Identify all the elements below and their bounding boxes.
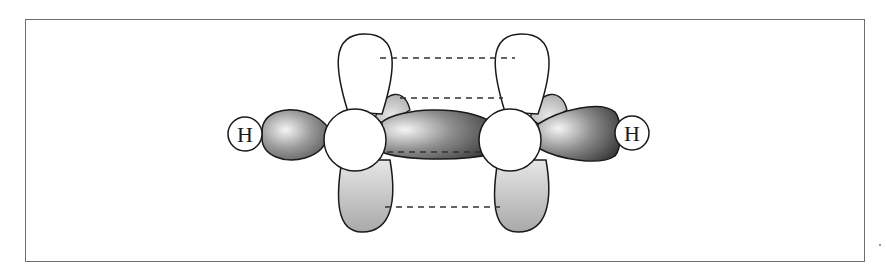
p-orbital-lower-left [339, 160, 393, 232]
carbon-atom-left [324, 109, 386, 171]
hydrogen-label-right: H [624, 121, 640, 146]
ethylene-orbital-diagram: H H [0, 0, 886, 271]
hydrogen-label-left: H [237, 122, 253, 147]
sigma-bond-left-CH [262, 110, 330, 160]
carbon-atom-right [479, 109, 541, 171]
stray-mark [879, 244, 881, 246]
p-orbital-upper-left [338, 34, 392, 114]
p-orbital-upper-right [495, 34, 549, 114]
